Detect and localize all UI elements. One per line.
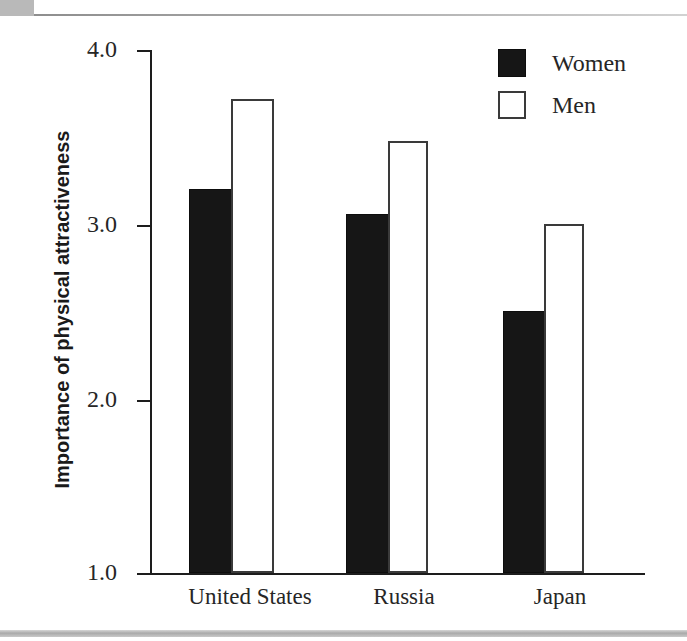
legend-swatch-men-icon <box>498 91 526 119</box>
y-tick-1: 1.0 <box>137 573 150 575</box>
legend-item-women: Women <box>498 42 678 84</box>
y-tick-label-2: 2.0 <box>87 386 117 413</box>
bar-men-united-states <box>231 99 274 573</box>
page-corner-block <box>0 0 34 16</box>
y-tick-2: 2.0 <box>137 400 150 402</box>
y-axis-line <box>150 50 152 575</box>
page-bottom-rule <box>0 630 687 637</box>
legend-label-women: Women <box>552 50 626 77</box>
bar-men-japan <box>544 224 584 573</box>
y-tick-4: 4.0 <box>137 50 150 52</box>
y-tick-label-1: 1.0 <box>87 559 117 586</box>
x-tick-label-japan: Japan <box>534 584 586 610</box>
chart-legend: Women Men <box>498 42 678 126</box>
legend-item-men: Men <box>498 84 678 126</box>
legend-swatch-women-icon <box>498 49 526 77</box>
y-axis-title: Importance of physical attractiveness <box>51 100 74 520</box>
y-tick-label-3: 3.0 <box>87 211 117 238</box>
bar-chart: Importance of physical attractiveness 4.… <box>0 16 687 628</box>
plot-area: 4.0 3.0 2.0 1.0 United States Russia Jap… <box>150 50 645 575</box>
bar-women-united-states <box>189 189 232 573</box>
y-tick-3: 3.0 <box>137 225 150 227</box>
x-tick-label-russia: Russia <box>373 584 434 610</box>
y-tick-label-4: 4.0 <box>87 36 117 63</box>
x-axis-line <box>150 573 645 575</box>
bar-men-russia <box>388 141 428 573</box>
bar-women-japan <box>503 311 545 573</box>
legend-label-men: Men <box>552 92 596 119</box>
x-tick-label-united-states: United States <box>188 584 311 610</box>
bar-women-russia <box>346 214 389 573</box>
